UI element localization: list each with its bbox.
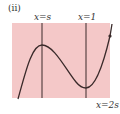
bottom-label-2s: x=2s <box>96 101 119 110</box>
point-marker <box>108 34 111 37</box>
cubic-graph <box>0 0 120 114</box>
